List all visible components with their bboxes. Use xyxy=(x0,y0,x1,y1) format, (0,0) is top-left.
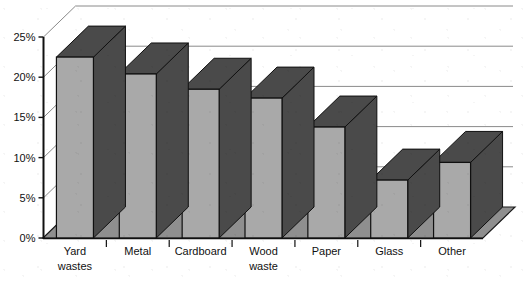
bar-paper xyxy=(308,96,377,238)
bar-wood-waste xyxy=(245,67,314,238)
bar-cardboard xyxy=(182,58,251,238)
bar-side-face xyxy=(156,43,188,238)
category-label-line2: waste xyxy=(248,260,278,272)
y-tick-label: 5% xyxy=(20,192,36,204)
category-label: Cardboard xyxy=(175,245,227,257)
bar-front-face xyxy=(56,57,93,238)
y-tick-label: 10% xyxy=(13,152,35,164)
bar-chart-svg: 0%5%10%15%20%25% YardwastesMetalCardboar… xyxy=(0,0,524,281)
bar-side-face xyxy=(93,26,125,238)
bar-yard-wastes xyxy=(56,26,125,238)
y-tick-label: 25% xyxy=(13,31,35,43)
y-tick-label: 20% xyxy=(13,71,35,83)
chart-container: 0%5%10%15%20%25% YardwastesMetalCardboar… xyxy=(0,0,524,281)
category-label: Wood xyxy=(249,245,278,257)
y-tick-label: 15% xyxy=(13,111,35,123)
y-tick-label: 0% xyxy=(20,232,36,244)
bar-metal xyxy=(119,43,188,238)
category-label: Glass xyxy=(375,245,404,257)
category-label: Yard xyxy=(64,245,86,257)
category-label: Metal xyxy=(124,245,151,257)
category-label: Paper xyxy=(312,245,342,257)
category-label-line2: wastes xyxy=(57,260,93,272)
category-label: Other xyxy=(438,245,466,257)
